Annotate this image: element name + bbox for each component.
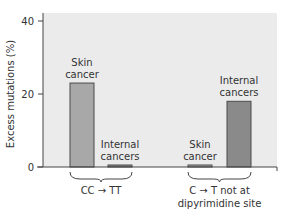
bar-label: Internal: [101, 139, 140, 150]
y-axis-label: Excess mutations (%): [5, 40, 16, 148]
group-braces: [70, 172, 251, 182]
y-tick-label: 40: [21, 16, 34, 27]
group-brace: [188, 172, 251, 182]
y-tick-label: 0: [28, 162, 34, 173]
bar-label: Skin: [189, 139, 210, 150]
bar-label: cancer: [65, 69, 100, 80]
bar: [227, 101, 251, 167]
bar-label: Internal: [220, 75, 259, 86]
y-tick-label: 20: [21, 89, 34, 100]
bar-chart: SkincancerInternalcancersSkincancerInter…: [0, 0, 284, 217]
group-label: CC → TT: [81, 185, 123, 196]
bar-label: cancer: [183, 151, 218, 162]
group-brace: [70, 172, 132, 182]
group-label: C → T not at: [189, 185, 250, 196]
bar-label: cancers: [220, 87, 259, 98]
bar: [70, 83, 94, 167]
bar-label: Skin: [71, 57, 92, 68]
chart-canvas: SkincancerInternalcancersSkincancerInter…: [0, 0, 284, 217]
group-labels: CC → TTC → T not atdipyrimidine site: [81, 185, 262, 209]
bar-label: cancers: [101, 151, 140, 162]
group-label: dipyrimidine site: [178, 198, 262, 209]
